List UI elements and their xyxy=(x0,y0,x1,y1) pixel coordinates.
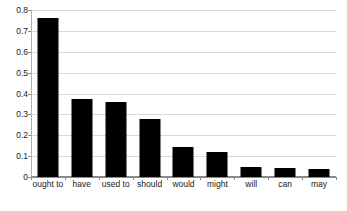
x-axis-tick-mark xyxy=(234,177,235,180)
x-axis-tick-label: might xyxy=(200,180,234,189)
x-axis-tick-mark xyxy=(133,177,134,180)
y-axis-tick-label: 0 xyxy=(0,173,28,182)
bar-slot xyxy=(234,10,268,177)
bar xyxy=(139,119,160,177)
bar-slot xyxy=(133,10,167,177)
plot-area xyxy=(31,10,336,177)
x-axis-tick-mark xyxy=(268,177,269,180)
x-axis-tick-mark xyxy=(167,177,168,180)
y-axis-tick-label: 0.5 xyxy=(0,69,28,78)
y-axis-tick-label: 0.3 xyxy=(0,110,28,119)
bar-slot xyxy=(31,10,65,177)
y-axis-tick-label: 0.4 xyxy=(0,90,28,99)
y-axis-tick-label: 0.8 xyxy=(0,6,28,15)
x-axis: ought tohaveused toshouldwouldmightwillc… xyxy=(31,180,336,200)
bar-series xyxy=(31,10,336,177)
bar xyxy=(71,99,92,177)
x-axis-tick-mark xyxy=(200,177,201,180)
bar-chart: 00.10.20.30.40.50.60.70.8 ought tohaveus… xyxy=(0,0,347,211)
gridline xyxy=(31,177,336,178)
bar xyxy=(37,18,58,177)
bar-slot xyxy=(65,10,99,177)
bar xyxy=(173,147,194,177)
x-axis-tick-label: ought to xyxy=(31,180,65,189)
y-axis-tick-label: 0.6 xyxy=(0,48,28,57)
bar-slot xyxy=(99,10,133,177)
bar xyxy=(241,167,262,177)
bar xyxy=(105,102,126,177)
x-axis-tick-label: can xyxy=(268,180,302,189)
bar xyxy=(275,168,296,177)
bar xyxy=(309,169,330,177)
x-axis-tick-label: will xyxy=(234,180,268,189)
x-axis-tick-label: should xyxy=(133,180,167,189)
x-axis-tick-label: used to xyxy=(99,180,133,189)
bar-slot xyxy=(302,10,336,177)
bar-slot xyxy=(268,10,302,177)
y-axis-tick-label: 0.7 xyxy=(0,27,28,36)
bar-slot xyxy=(167,10,201,177)
x-axis-tick-mark xyxy=(99,177,100,180)
x-axis-tick-mark xyxy=(65,177,66,180)
x-axis-tick-mark xyxy=(336,177,337,180)
bar xyxy=(207,152,228,177)
x-axis-tick-mark xyxy=(302,177,303,180)
x-axis-tick-mark xyxy=(31,177,32,180)
x-axis-tick-label: have xyxy=(65,180,99,189)
x-axis-tick-label: would xyxy=(167,180,201,189)
x-axis-tick-label: may xyxy=(302,180,336,189)
y-axis-tick-label: 0.2 xyxy=(0,131,28,140)
bar-slot xyxy=(200,10,234,177)
y-axis-tick-label: 0.1 xyxy=(0,152,28,161)
